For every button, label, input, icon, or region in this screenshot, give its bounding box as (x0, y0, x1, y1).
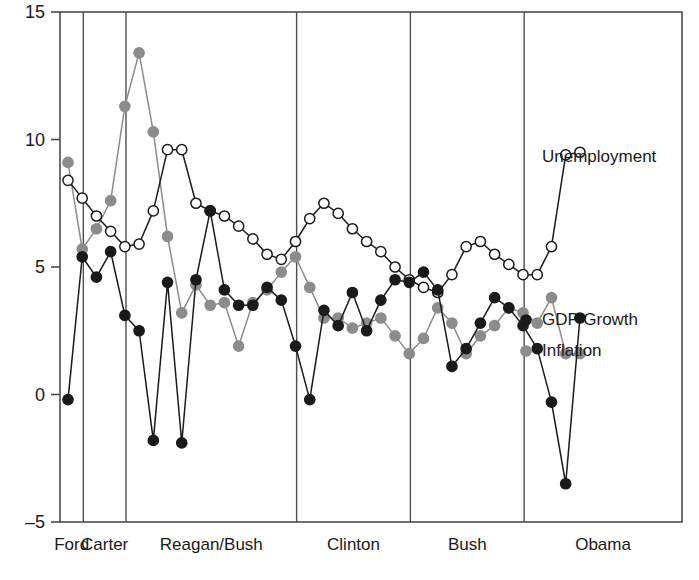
data-point (347, 287, 357, 297)
data-point (162, 231, 172, 241)
data-point (91, 224, 101, 234)
data-point (205, 300, 215, 310)
data-point (63, 157, 73, 167)
data-point (191, 275, 201, 285)
data-point (418, 282, 428, 292)
data-point (461, 344, 471, 354)
data-point (248, 300, 258, 310)
data-point (305, 282, 315, 292)
data-point (447, 270, 457, 280)
data-point (234, 300, 244, 310)
data-point (120, 242, 130, 252)
data-point (205, 206, 215, 216)
data-point (490, 249, 500, 259)
chart-figure: –5051015FordCarterReagan/BushClintonBush… (0, 0, 699, 580)
data-point (333, 208, 343, 218)
legend-label: GDP Growth (542, 310, 638, 329)
data-point (305, 213, 315, 223)
legend-marker (521, 315, 531, 325)
legend-item-unemployment: Unemployment (542, 147, 657, 166)
data-point (120, 101, 130, 111)
data-point (134, 48, 144, 58)
data-point (234, 221, 244, 231)
data-point (262, 249, 272, 259)
data-point (234, 341, 244, 351)
data-point (490, 321, 500, 331)
data-point (376, 295, 386, 305)
data-point (418, 267, 428, 277)
data-point (162, 277, 172, 287)
data-point (91, 272, 101, 282)
data-point (362, 236, 372, 246)
data-point (546, 293, 556, 303)
data-point (319, 305, 329, 315)
y-axis-tick-label: 5 (35, 257, 45, 277)
data-point (120, 310, 130, 320)
data-point (276, 295, 286, 305)
data-point (447, 361, 457, 371)
data-point (77, 252, 87, 262)
data-point (362, 326, 372, 336)
series-line (68, 211, 580, 484)
data-point (504, 259, 514, 269)
y-axis-tick-label: –5 (25, 512, 45, 532)
data-point (219, 298, 229, 308)
y-axis-tick-label: 15 (25, 2, 45, 22)
data-point (219, 285, 229, 295)
data-point (276, 267, 286, 277)
data-point (134, 239, 144, 249)
legend-label: Inflation (542, 341, 602, 360)
data-point (475, 331, 485, 341)
data-point (546, 242, 556, 252)
data-point (177, 308, 187, 318)
data-point (546, 397, 556, 407)
data-point (390, 275, 400, 285)
data-point (490, 293, 500, 303)
data-point (333, 321, 343, 331)
data-point (404, 277, 414, 287)
data-point (390, 331, 400, 341)
data-point (561, 479, 571, 489)
legend-label: Unemployment (542, 147, 657, 166)
data-point (262, 282, 272, 292)
y-axis-tick-label: 0 (35, 385, 45, 405)
series-unemployment (63, 145, 585, 298)
era-label-carter: Carter (81, 535, 129, 554)
chart-canvas: –5051015FordCarterReagan/BushClintonBush… (0, 0, 699, 580)
data-point (63, 175, 73, 185)
data-point (106, 226, 116, 236)
data-point (532, 344, 542, 354)
data-point (162, 145, 172, 155)
data-point (475, 318, 485, 328)
data-point (518, 270, 528, 280)
data-point (63, 395, 73, 405)
data-point (77, 193, 87, 203)
era-label-clinton: Clinton (327, 535, 380, 554)
data-point (376, 313, 386, 323)
data-point (91, 211, 101, 221)
data-point (418, 333, 428, 343)
data-point (134, 326, 144, 336)
data-point (106, 196, 116, 206)
data-point (376, 247, 386, 257)
era-label-obama: Obama (575, 535, 631, 554)
data-point (290, 236, 300, 246)
data-point (177, 438, 187, 448)
era-label-bush: Bush (448, 535, 487, 554)
data-point (177, 145, 187, 155)
data-point (219, 211, 229, 221)
era-label-reagan-bush: Reagan/Bush (160, 535, 263, 554)
data-point (475, 236, 485, 246)
data-point (148, 206, 158, 216)
data-point (319, 198, 329, 208)
data-point (447, 318, 457, 328)
data-point (347, 323, 357, 333)
data-point (504, 303, 514, 313)
data-point (148, 127, 158, 137)
data-point (347, 224, 357, 234)
data-point (404, 349, 414, 359)
data-point (290, 341, 300, 351)
data-point (433, 285, 443, 295)
data-point (276, 254, 286, 264)
data-point (305, 395, 315, 405)
